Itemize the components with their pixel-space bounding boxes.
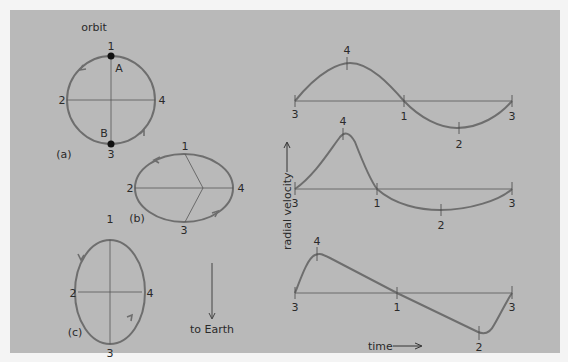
velocity-curve-a: 3 4 1 2 3 <box>292 44 516 151</box>
marker-B-dot <box>108 141 115 148</box>
svg-text:3: 3 <box>292 197 299 210</box>
orbit-a: orbit 1 2 3 4 A B (a) <box>56 21 165 161</box>
orbit-label: orbit <box>81 21 107 34</box>
orbit-velocity-figure: orbit 1 2 3 4 A B (a) 1 2 3 4 (b) 1 2 <box>0 0 568 362</box>
marker-A-dot <box>108 53 115 60</box>
svg-text:4: 4 <box>344 44 351 57</box>
svg-text:2: 2 <box>476 341 483 354</box>
earth-direction: to Earth <box>190 263 234 336</box>
orbit-c: 1 2 3 4 (c) <box>68 213 154 360</box>
svg-text:2: 2 <box>456 138 463 151</box>
svg-text:3: 3 <box>181 224 188 237</box>
svg-text:3: 3 <box>292 301 299 314</box>
svg-text:3: 3 <box>509 197 516 210</box>
velocity-curve-b: 3 4 1 2 3 <box>292 115 516 232</box>
svg-text:1: 1 <box>107 213 114 226</box>
svg-text:1: 1 <box>182 140 189 153</box>
svg-text:(c): (c) <box>68 326 83 339</box>
direction-arrow-icon <box>80 65 86 70</box>
svg-text:2: 2 <box>438 219 445 232</box>
svg-text:3: 3 <box>509 110 516 123</box>
orbit-b: 1 2 3 4 (b) <box>127 140 245 237</box>
svg-text:1: 1 <box>394 301 401 314</box>
svg-text:3: 3 <box>107 347 114 360</box>
direction-arrow-icon <box>127 315 132 321</box>
svg-text:time: time <box>368 340 393 353</box>
svg-text:4: 4 <box>238 182 245 195</box>
svg-text:radial velocity: radial velocity <box>281 172 294 250</box>
svg-text:4: 4 <box>314 235 321 248</box>
svg-text:(b): (b) <box>129 212 145 225</box>
velocity-axis-label: radial velocity <box>281 142 294 250</box>
svg-text:(a): (a) <box>56 148 71 161</box>
svg-text:B: B <box>100 127 108 140</box>
svg-text:1: 1 <box>374 197 381 210</box>
svg-text:A: A <box>115 62 123 75</box>
svg-text:2: 2 <box>70 287 77 300</box>
velocity-curve-c: 3 4 1 2 3 <box>292 235 516 354</box>
svg-text:4: 4 <box>340 115 347 128</box>
svg-text:3: 3 <box>509 301 516 314</box>
direction-arrow-icon <box>140 130 144 136</box>
svg-text:2: 2 <box>127 182 134 195</box>
svg-text:4: 4 <box>159 94 166 107</box>
time-axis-label: time <box>368 340 422 353</box>
earth-label: to Earth <box>190 323 234 336</box>
svg-text:1: 1 <box>401 110 408 123</box>
svg-text:3: 3 <box>108 148 115 161</box>
svg-text:3: 3 <box>292 108 299 121</box>
svg-text:4: 4 <box>147 287 154 300</box>
svg-text:2: 2 <box>59 94 66 107</box>
svg-text:1: 1 <box>108 40 115 53</box>
